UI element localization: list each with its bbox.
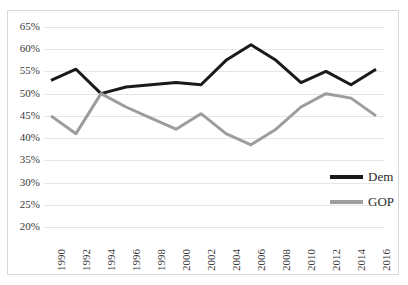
legend-item-gop[interactable]: GOP xyxy=(330,195,394,208)
legend-label-dem: Dem xyxy=(368,170,393,183)
series-line-gop xyxy=(51,94,376,145)
line-chart-plot-area: 65%60%55%50%45%40%35%30%25%20% 199019921… xyxy=(0,0,408,285)
series-lines-group xyxy=(0,0,408,285)
legend-swatch-gop xyxy=(330,200,363,204)
series-line-dem xyxy=(51,45,376,94)
legend-swatch-dem xyxy=(330,175,363,179)
legend-item-dem[interactable]: Dem xyxy=(330,170,393,183)
legend-label-gop: GOP xyxy=(368,195,394,208)
